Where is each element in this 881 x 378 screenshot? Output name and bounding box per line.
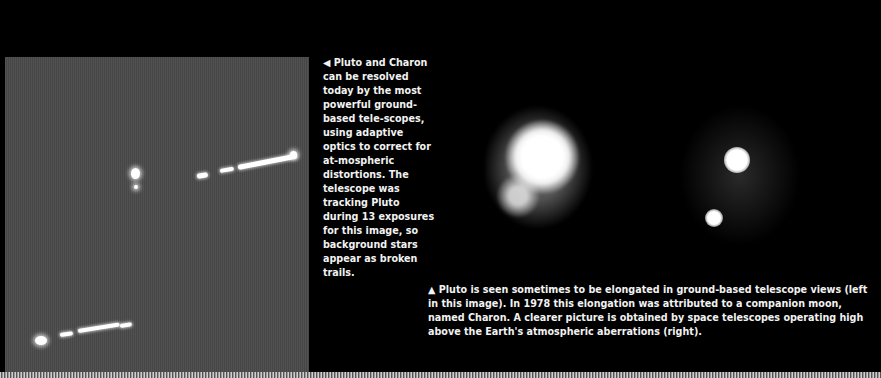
star-trail xyxy=(238,154,298,170)
ground-based-pluto-image xyxy=(485,105,595,235)
star-trail xyxy=(60,331,73,337)
ground-telescope-photo xyxy=(5,57,309,372)
star-dot xyxy=(35,336,47,345)
charon-dot xyxy=(134,185,138,189)
bottom-caption: ▲ Pluto is seen sometimes to be elongate… xyxy=(428,283,873,339)
space-telescope-halo xyxy=(670,100,810,250)
star-dot xyxy=(290,151,297,158)
star-trail xyxy=(78,322,120,333)
star-trail xyxy=(220,167,234,173)
space-telescope-pluto xyxy=(724,147,750,173)
side-caption-text: Pluto and Charon can be resolved today b… xyxy=(323,57,434,278)
pluto-dot xyxy=(131,168,140,179)
star-trail xyxy=(197,172,209,179)
side-caption: ◀ Pluto and Charon can be resolved today… xyxy=(323,56,435,280)
bottom-caption-text: Pluto is seen sometimes to be elongated … xyxy=(428,284,867,337)
star-trail xyxy=(120,322,132,328)
triangle-left-icon: ◀ xyxy=(323,57,330,68)
triangle-up-icon: ▲ xyxy=(428,284,435,295)
space-telescope-charon xyxy=(705,209,723,227)
bottom-stripe-band xyxy=(0,372,881,378)
